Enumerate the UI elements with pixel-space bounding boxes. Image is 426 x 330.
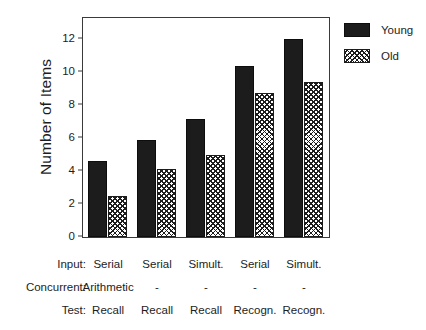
y-tick-label: 4 [69,164,75,176]
plot-frame: 024681012 [82,17,330,238]
condition-row: Input:SerialSerialSimult.SerialSimult. [0,258,340,281]
bar-old-group-2 [157,169,177,237]
legend-item-young[interactable]: Young [344,22,426,38]
bar-old-group-5 [304,82,324,237]
y-tick-label: 10 [62,65,75,77]
y-tick-label: 2 [69,197,75,209]
y-tick-mark [78,37,83,38]
y-tick-label: 6 [69,131,75,143]
y-tick-mark [78,235,83,236]
legend-item-old[interactable]: Old [344,48,426,64]
y-tick-mark [78,169,83,170]
plot-area: 024681012 [83,18,329,237]
y-tick-label: 0 [69,230,75,242]
y-axis-title: Number of Items [37,27,55,207]
condition-cell: - [269,281,339,293]
condition-cell: Simult. [269,258,339,270]
y-tick-label: 12 [62,32,75,44]
bar-old-group-4 [255,93,275,237]
chart-legend: Young Old [344,22,426,74]
bar-young-group-4 [235,66,255,237]
bar-old-group-3 [206,155,226,238]
bar-chart-figure: Number of Items 024681012 Young Old Inpu… [0,0,426,330]
solid-black-swatch-icon [344,23,370,37]
y-tick-mark [78,103,83,104]
bar-old-group-1 [108,196,128,237]
bar-young-group-2 [137,140,157,237]
condition-row: Test:RecallRecallRecallRecogn.Recogn. [0,304,340,327]
condition-table: Input:SerialSerialSimult.SerialSimult.Co… [0,258,340,327]
condition-row: Concurrent:Arithmetic---- [0,281,340,304]
y-tick-mark [78,136,83,137]
legend-label-old: Old [381,50,399,62]
condition-cell: Recogn. [269,304,339,316]
bar-young-group-1 [88,161,108,237]
y-tick-mark [78,70,83,71]
bar-young-group-5 [284,39,304,237]
cross-hatch-swatch-icon [344,49,370,63]
y-tick-mark [78,202,83,203]
y-tick-label: 8 [69,98,75,110]
legend-label-young: Young [381,24,413,36]
bar-young-group-3 [186,119,206,237]
